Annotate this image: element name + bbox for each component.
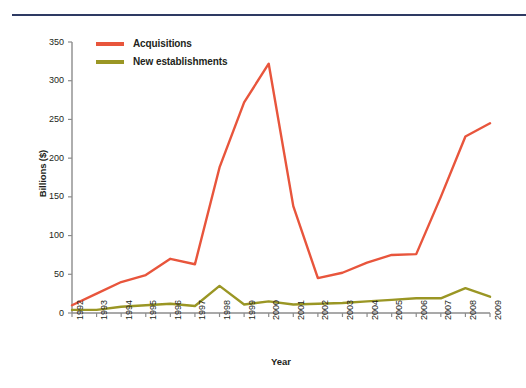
y-tick-label: 50	[30, 270, 64, 279]
legend-label: Acquisitions	[133, 38, 192, 49]
x-tick-label: 2009	[494, 300, 503, 320]
x-tick-label: 1992	[76, 300, 85, 320]
header-divider-rule	[12, 14, 526, 16]
y-tick-label: 0	[30, 309, 64, 318]
x-tick-label: 2001	[297, 300, 306, 320]
line-chart-plot	[0, 18, 526, 388]
x-tick-label: 2007	[444, 300, 453, 320]
legend-swatch-icon	[96, 60, 124, 64]
series-line-acquisitions	[72, 64, 490, 306]
y-tick-label: 350	[30, 38, 64, 47]
legend-swatch-icon	[96, 42, 124, 46]
legend-item-new-establishments: New establishments	[96, 54, 227, 69]
y-axis-title: Billions ($)	[37, 114, 48, 234]
x-tick-label: 1999	[248, 300, 257, 320]
x-tick-label: 2000	[272, 300, 281, 320]
figure-root: 050100150200250300350 199219931994199519…	[0, 0, 526, 388]
x-tick-label: 2006	[420, 300, 429, 320]
legend-label: New establishments	[133, 56, 227, 67]
x-tick-label: 1997	[198, 300, 207, 320]
axis-lines	[72, 42, 490, 313]
chart-legend: Acquisitions New establishments	[96, 36, 227, 72]
data-series-group	[72, 64, 490, 310]
x-tick-label: 2002	[321, 300, 330, 320]
x-tick-label: 1993	[100, 300, 109, 320]
x-tick-label: 1995	[149, 300, 158, 320]
x-tick-label: 1996	[174, 300, 183, 320]
x-tick-label: 1998	[223, 300, 232, 320]
x-tick-label: 2008	[469, 300, 478, 320]
legend-item-acquisitions: Acquisitions	[96, 36, 227, 51]
y-tick-label: 300	[30, 76, 64, 85]
x-axis-title: Year	[72, 356, 490, 367]
x-tick-label: 2003	[346, 300, 355, 320]
x-tick-label: 2004	[371, 300, 380, 320]
x-tick-label: 1994	[125, 300, 134, 320]
x-tick-label: 2005	[395, 300, 404, 320]
chart-canvas: 050100150200250300350 199219931994199519…	[0, 18, 526, 388]
